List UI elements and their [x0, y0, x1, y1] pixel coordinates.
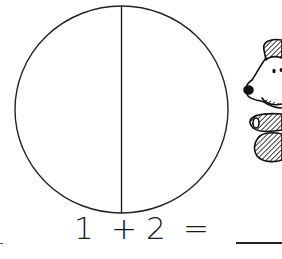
plus-sign: +	[111, 208, 137, 248]
operand-b: 2	[146, 208, 166, 248]
operand-a: 1	[74, 208, 94, 248]
fraction-circle	[15, 6, 228, 213]
answer-blank[interactable]	[236, 242, 282, 244]
equals-sign: =	[183, 208, 209, 248]
dog-cartoon-icon	[244, 39, 282, 161]
edge-mark	[0, 243, 3, 244]
